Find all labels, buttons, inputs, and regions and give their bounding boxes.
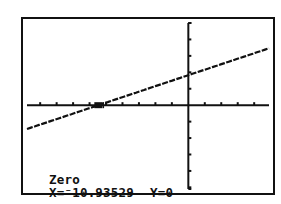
x-readout: X=⁻10.93529 bbox=[49, 185, 134, 200]
cursor-marker bbox=[94, 102, 102, 108]
series-line-y1 bbox=[27, 48, 269, 129]
calculator-screen: Zero X=⁻10.93529Y=0 bbox=[21, 17, 275, 195]
graph-canvas bbox=[23, 19, 273, 193]
coordinate-readout: X=⁻10.93529Y=0 bbox=[49, 187, 173, 199]
y-readout: Y=0 bbox=[150, 185, 173, 200]
